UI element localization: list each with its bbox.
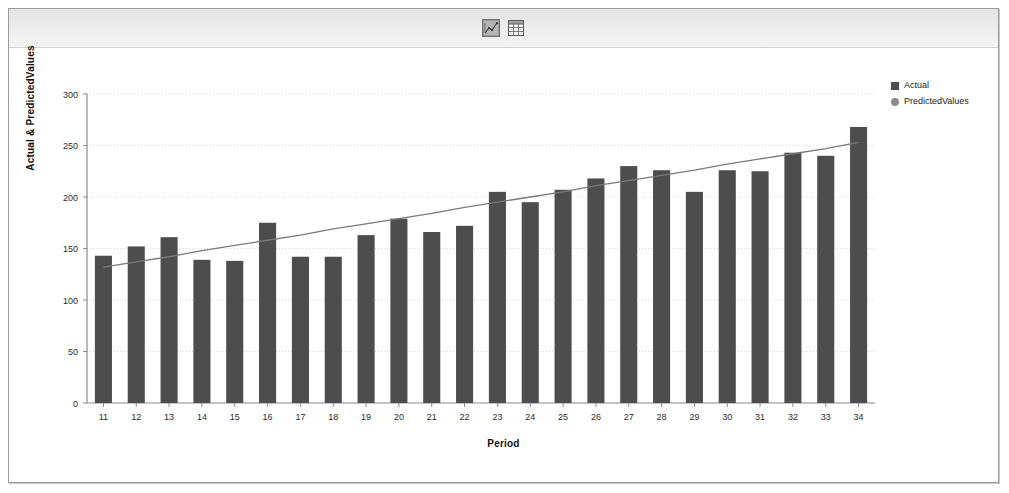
x-axis-tick-label: 15: [230, 412, 240, 422]
bar[interactable]: [522, 202, 539, 403]
bar[interactable]: [653, 170, 670, 403]
legend-swatch-circle-icon: [891, 98, 899, 106]
y-axis-tick-label: 50: [68, 347, 78, 357]
legend-swatch-square-icon: [891, 82, 899, 90]
x-axis-tick-label: 14: [197, 412, 207, 422]
legend-item-predictedvalues[interactable]: PredictedValues: [891, 97, 995, 106]
x-axis-tick-label: 23: [492, 412, 502, 422]
x-axis-tick-label: 32: [788, 412, 798, 422]
chart-legend: Actual PredictedValues: [891, 81, 995, 113]
chart-toolbar: [9, 9, 998, 48]
y-axis-tick-label: 300: [63, 90, 78, 100]
bar[interactable]: [686, 192, 703, 403]
bar[interactable]: [719, 170, 736, 403]
bar[interactable]: [259, 223, 276, 403]
x-axis-tick-label: 20: [394, 412, 404, 422]
x-axis-tick-label: 18: [328, 412, 338, 422]
x-axis-tick-label: 28: [657, 412, 667, 422]
bar[interactable]: [390, 219, 407, 403]
chart-view-icon[interactable]: [480, 17, 502, 39]
bar[interactable]: [95, 256, 112, 403]
bar[interactable]: [456, 226, 473, 403]
bar[interactable]: [128, 246, 145, 403]
bar[interactable]: [226, 261, 243, 403]
x-axis-tick-label: 11: [99, 412, 108, 422]
bar[interactable]: [193, 260, 210, 403]
y-axis-title: Actual & PredictedValues: [25, 18, 36, 198]
x-axis-tick-label: 26: [591, 412, 601, 422]
bar[interactable]: [817, 156, 834, 403]
bar[interactable]: [850, 127, 867, 403]
x-axis-tick-label: 24: [525, 412, 535, 422]
bar[interactable]: [161, 237, 178, 403]
x-axis-tick-label: 30: [722, 412, 732, 422]
legend-label-predictedvalues: PredictedValues: [904, 97, 969, 106]
x-axis-tick-label: 29: [689, 412, 699, 422]
table-view-icon-glyph: [506, 18, 526, 38]
bar[interactable]: [587, 178, 604, 403]
x-axis-tick-label: 34: [854, 412, 864, 422]
x-axis-tick-label: 25: [558, 412, 568, 422]
y-axis-tick-label: 100: [63, 296, 78, 306]
bar[interactable]: [752, 171, 769, 403]
x-axis-tick-label: 21: [427, 412, 437, 422]
bar[interactable]: [358, 235, 375, 403]
x-axis-tick-label: 33: [821, 412, 831, 422]
bar[interactable]: [489, 192, 506, 403]
bar[interactable]: [555, 190, 572, 403]
y-axis-tick-label: 150: [63, 244, 78, 254]
bar[interactable]: [620, 166, 637, 403]
x-axis-tick-label: 17: [295, 412, 305, 422]
x-axis-tick-label: 31: [755, 412, 765, 422]
legend-item-actual[interactable]: Actual: [891, 81, 995, 90]
chart-canvas: Actual PredictedValues Actual & Predicte…: [9, 48, 998, 482]
legend-label-actual: Actual: [904, 81, 929, 90]
chart-plot-area: 0501001502002503001112131415161718192021…: [9, 48, 1000, 482]
x-axis-tick-label: 19: [361, 412, 371, 422]
table-view-icon[interactable]: [505, 17, 527, 39]
x-axis-tick-label: 16: [263, 412, 273, 422]
y-axis-tick-label: 250: [63, 141, 78, 151]
x-axis-tick-label: 27: [624, 412, 634, 422]
screenshot-root: Actual PredictedValues Actual & Predicte…: [0, 0, 1009, 493]
bar[interactable]: [292, 257, 309, 403]
bar[interactable]: [784, 153, 801, 403]
x-axis-title: Period: [9, 438, 998, 449]
bar[interactable]: [423, 232, 440, 403]
bar[interactable]: [325, 257, 342, 403]
y-axis-tick-label: 0: [73, 399, 78, 409]
x-axis-tick-label: 13: [164, 412, 174, 422]
chart-window: Actual PredictedValues Actual & Predicte…: [8, 8, 999, 483]
x-axis-tick-label: 12: [131, 412, 141, 422]
x-axis-tick-label: 22: [460, 412, 470, 422]
y-axis-tick-label: 200: [63, 193, 78, 203]
chart-view-icon-glyph: [481, 18, 501, 38]
